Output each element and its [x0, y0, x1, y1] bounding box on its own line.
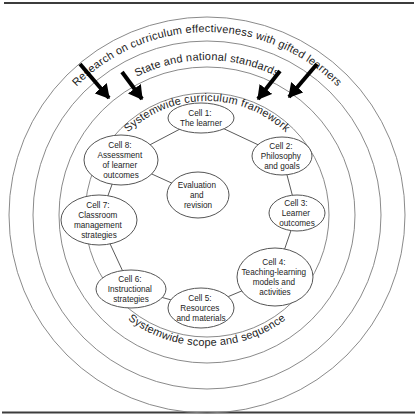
ring-label-standards-text: State and national standards	[132, 50, 282, 79]
arrow-down-left-icon-2	[289, 64, 317, 97]
arrow-down-left-icon-1	[258, 71, 280, 99]
cell-3-label-line: Cell 3:	[284, 199, 307, 208]
ring-label-standards: State and national standards	[132, 50, 282, 79]
cell-4-label-line: activities	[259, 288, 290, 297]
center-evaluation-label-line: Evaluation	[178, 181, 217, 190]
center-evaluation-label-line: and	[190, 191, 204, 200]
cell-7-label-line: management	[74, 221, 123, 230]
cell-3-label: Cell 3: Learner outcomes	[279, 199, 315, 228]
cell-6-label-line: strategies	[113, 295, 149, 304]
cell-7-label-line: strategies	[81, 231, 117, 240]
cell-1-ellipse	[168, 103, 234, 133]
cell-5-label-line: Cell 5:	[188, 294, 211, 303]
cell-8-label-line: of learner	[103, 161, 138, 170]
cell-4-label-line: Cell 4:	[262, 258, 285, 267]
cell-4-label-line: models and	[253, 278, 296, 287]
cell-5-label-line: and materials	[176, 314, 225, 323]
cell-6-label-line: Instructional	[108, 285, 152, 294]
curriculum-system-diagram: Research on curriculum effectiveness wit…	[0, 0, 416, 418]
cell-3-label-line: outcomes	[279, 219, 315, 228]
cell-7-label-line: Classroom	[78, 211, 117, 220]
cell-1-label-line: Cell 1:	[188, 109, 211, 118]
cell-8-label-line: Assessment	[98, 151, 143, 160]
diagram-canvas: Research on curriculum effectiveness wit…	[0, 0, 416, 418]
cell-1-label-line: The learner	[180, 119, 222, 128]
cell-4-ellipse	[237, 248, 313, 306]
cell-7-label-line: Cell 7:	[86, 201, 109, 210]
cell-2-label-line: Philosophy	[261, 152, 302, 161]
cell-2-label-line: and goals	[264, 162, 300, 171]
cell-8-label-line: Cell 8:	[108, 141, 131, 150]
cell-2-label-line: Cell 2:	[269, 142, 292, 151]
cell-8-label-line: outcomes	[103, 171, 139, 180]
cell-3-label-line: Learner	[282, 209, 310, 218]
center-evaluation-label-line: revision	[184, 201, 213, 210]
cell-6-label-line: Cell 6:	[118, 275, 141, 284]
cell-5-label-line: Resources	[180, 304, 219, 313]
cell-4-label-line: Teaching-learning	[242, 268, 307, 277]
